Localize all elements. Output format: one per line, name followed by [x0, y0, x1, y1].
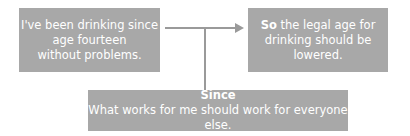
reason-line-3: without problems. [37, 48, 141, 63]
conclusion-box: So the legal age for drinking should be … [248, 8, 388, 72]
conclusion-line-1-text: the legal age for [277, 18, 376, 32]
conclusion-line-2: drinking should be [265, 33, 372, 48]
conclusion-line-1: So the legal age for [261, 18, 376, 33]
arrow-head-icon [235, 23, 244, 33]
reason-line-2: age fourteen [52, 33, 126, 48]
conclusion-line-3: lowered. [293, 48, 342, 63]
reason-box: I've been drinking since age fourteen wi… [19, 8, 160, 72]
warrant-keyword: Since [200, 88, 235, 103]
reason-line-1: I've been drinking since [21, 18, 158, 33]
connector-vertical [204, 27, 206, 90]
conclusion-keyword: So [261, 18, 277, 32]
connector-horizontal [165, 27, 237, 29]
warrant-box: Since What works for me should work for … [88, 90, 348, 131]
warrant-text: What works for me should work for everyo… [88, 103, 348, 133]
